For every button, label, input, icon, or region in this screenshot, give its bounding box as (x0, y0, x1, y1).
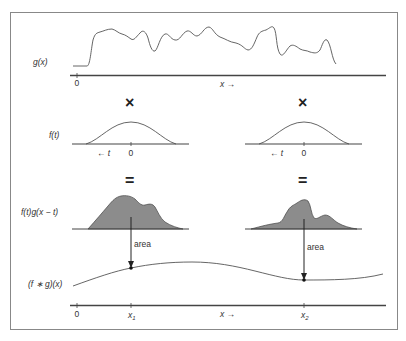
g-label: g(x) (33, 57, 48, 67)
times-right: × (298, 94, 307, 111)
conv-point-x2 (302, 278, 306, 282)
area-label-left: area (134, 239, 151, 249)
area-label-right: area (307, 242, 324, 252)
f-axis-right-zero-label: 0 (302, 148, 307, 158)
g-axis-x-label: x → (219, 79, 235, 89)
equals-right: = (298, 172, 307, 189)
conv-label: (f ∗ g)(x) (28, 279, 63, 289)
f-axis-right-t-label: ← t (270, 148, 284, 158)
f-label: f(t) (49, 130, 60, 140)
f-axis-left-t-label: ← t (97, 148, 111, 158)
x-axis-origin-label: 0 (75, 309, 80, 319)
product-label: f(t)g(x − t) (21, 207, 58, 217)
g-axis-origin-label: 0 (75, 78, 80, 88)
x-axis-x-label: x → (219, 309, 235, 319)
times-left: × (125, 94, 134, 111)
f-axis-left-zero-label: 0 (129, 148, 134, 158)
frame-border (11, 13, 398, 330)
convolution-diagram: g(x) 0 x → × × f(t) ← t 0 ← t 0 = = f(t)… (0, 0, 406, 341)
equals-left: = (125, 172, 134, 189)
conv-point-x1 (129, 266, 133, 270)
